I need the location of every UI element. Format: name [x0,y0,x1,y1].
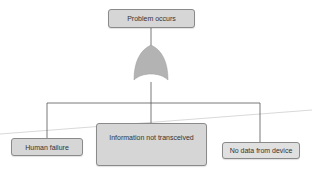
cause-node-information-not-transceived[interactable]: Information not transceived [96,123,207,166]
cause-label: Human failure [25,144,69,151]
or-gate-icon [134,45,168,80]
cause-node-no-data-from-device[interactable]: No data from device [222,142,300,159]
top-event-label: Problem occurs [127,15,176,22]
cause-label: No data from device [230,147,293,154]
top-event-node[interactable]: Problem occurs [108,9,195,28]
cause-label: Information not transceived [109,134,193,141]
cause-node-human-failure[interactable]: Human failure [11,138,83,156]
